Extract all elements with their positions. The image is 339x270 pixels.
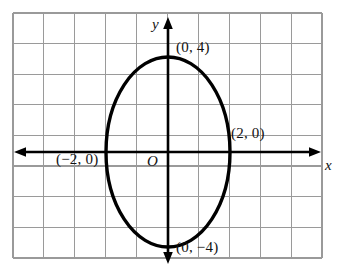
label-right-vertex: (2, 0) bbox=[231, 126, 265, 141]
label-bottom-vertex: (0, −4) bbox=[176, 240, 218, 255]
label-origin: O bbox=[147, 154, 158, 169]
label-left-vertex: (−2, 0) bbox=[56, 152, 98, 167]
coordinate-plane-graphic bbox=[0, 0, 339, 270]
label-y-axis: y bbox=[152, 17, 159, 32]
label-x-axis: x bbox=[325, 158, 332, 173]
graph-figure: (0, 4) (2, 0) (−2, 0) (0, −4) O x y bbox=[0, 0, 339, 270]
label-top-vertex: (0, 4) bbox=[176, 40, 210, 55]
